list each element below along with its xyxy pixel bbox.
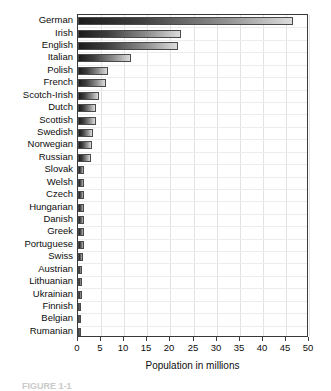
bar-row [78, 301, 307, 313]
figure-caption: FIGURE 1-1 [22, 381, 252, 391]
bar-chart-figure: GermanIrishEnglishItalianPolishFrenchSco… [0, 0, 331, 391]
plot-area [77, 14, 308, 337]
category-label: Finnish [0, 301, 73, 311]
bar-row [78, 288, 307, 300]
bar [78, 241, 84, 249]
bar-row [78, 313, 307, 325]
x-axis: 05101520253035404550 [77, 337, 308, 357]
bar-row [78, 77, 307, 89]
category-label: Welsh [0, 177, 73, 187]
category-label: Belgian [0, 313, 73, 323]
bar [78, 17, 293, 25]
category-label: Ukrainian [0, 289, 73, 299]
x-tick-label: 45 [273, 342, 297, 353]
bar [78, 104, 96, 112]
bar-row [78, 65, 307, 77]
category-label: Lithuanian [0, 276, 73, 286]
bar [78, 154, 91, 162]
bar [78, 141, 92, 149]
category-label: Czech [0, 189, 73, 199]
bar [78, 30, 181, 38]
category-label: Danish [0, 214, 73, 224]
category-label: Hungarian [0, 202, 73, 212]
category-label: Polish [0, 65, 73, 75]
category-label: Portuguese [0, 239, 73, 249]
category-label: Italian [0, 52, 73, 62]
x-tick-mark [308, 337, 309, 341]
category-label: Russian [0, 152, 73, 162]
x-tick-label: 30 [204, 342, 228, 353]
bar [78, 166, 84, 174]
bar [78, 216, 84, 224]
x-tick-mark [262, 337, 263, 341]
bar-row [78, 189, 307, 201]
x-tick-label: 15 [134, 342, 158, 353]
bar [78, 129, 93, 137]
x-tick-label: 50 [296, 342, 320, 353]
bar [78, 191, 84, 199]
x-tick-mark [123, 337, 124, 341]
category-axis-labels: GermanIrishEnglishItalianPolishFrenchSco… [0, 14, 73, 337]
x-tick-mark [100, 337, 101, 341]
bar [78, 179, 84, 187]
bar [78, 315, 81, 323]
bar-row [78, 164, 307, 176]
bar-row [78, 263, 307, 275]
bar [78, 266, 82, 274]
bar [78, 228, 84, 236]
category-label: French [0, 77, 73, 87]
bar [78, 291, 82, 299]
bar-row [78, 177, 307, 189]
category-label: Swiss [0, 251, 73, 261]
x-tick-mark [193, 337, 194, 341]
x-tick-label: 10 [111, 342, 135, 353]
bar-row [78, 239, 307, 251]
x-tick-label: 25 [181, 342, 205, 353]
x-tick-mark [216, 337, 217, 341]
category-label: Norwegian [0, 139, 73, 149]
x-tick-mark [169, 337, 170, 341]
x-tick-mark [239, 337, 240, 341]
bar [78, 79, 106, 87]
x-tick-mark [146, 337, 147, 341]
bar-row [78, 27, 307, 39]
bar [78, 253, 83, 261]
category-label: English [0, 40, 73, 50]
bar-row [78, 15, 307, 27]
bar-row [78, 90, 307, 102]
category-label: Irish [0, 28, 73, 38]
bar-row [78, 102, 307, 114]
bar [78, 278, 82, 286]
bar-row [78, 152, 307, 164]
bar-row [78, 251, 307, 263]
x-tick-label: 0 [65, 342, 89, 353]
x-tick-label: 40 [250, 342, 274, 353]
bar [78, 54, 131, 62]
bar [78, 117, 96, 125]
bar-row [78, 276, 307, 288]
x-tick-label: 20 [157, 342, 181, 353]
bar-row [78, 114, 307, 126]
bar-row [78, 52, 307, 64]
x-tick-mark [285, 337, 286, 341]
x-tick-mark [77, 337, 78, 341]
bar [78, 67, 108, 75]
category-label: Dutch [0, 102, 73, 112]
x-tick-label: 5 [88, 342, 112, 353]
bar [78, 204, 84, 212]
category-label: Slovak [0, 164, 73, 174]
bar [78, 303, 81, 311]
bar-row [78, 139, 307, 151]
bar-series [78, 15, 307, 336]
bar [78, 92, 99, 100]
category-label: Greek [0, 226, 73, 236]
category-label: German [0, 15, 73, 25]
x-tick-label: 35 [227, 342, 251, 353]
bar-row [78, 40, 307, 52]
category-label: Austrian [0, 264, 73, 274]
gridline-vertical [309, 15, 310, 336]
category-label: Swedish [0, 127, 73, 137]
bar [78, 42, 178, 50]
category-label: Scottish [0, 115, 73, 125]
x-axis-title: Population in millions [77, 360, 308, 372]
